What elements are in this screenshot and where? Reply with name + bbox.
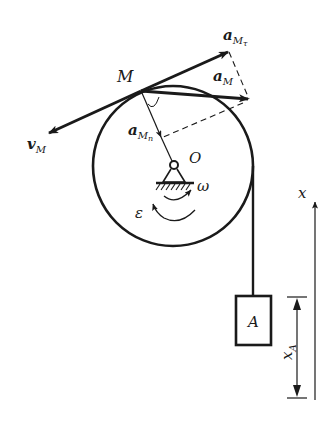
- v_M-main: v: [27, 135, 36, 153]
- angle-arc: [148, 97, 159, 107]
- dashed-a-to-an: [161, 103, 243, 138]
- v_M-sub: M: [35, 144, 47, 155]
- epsilon-label: ε: [135, 204, 143, 222]
- a_M-sub: M: [222, 76, 234, 87]
- omega-label: ω: [197, 177, 209, 195]
- x_A-arrow-bottom: [293, 385, 301, 397]
- center-O-label: O: [189, 149, 201, 167]
- epsilon-arrow: [153, 204, 195, 221]
- pulley-diagram: A O ω ε M vM aMτ: [0, 0, 336, 431]
- x-axis-label: x: [298, 184, 307, 202]
- a_Mt-subsub: τ: [243, 39, 248, 48]
- a_Mn-subsub: n: [148, 134, 153, 143]
- a_Mt-label: aMτ: [223, 26, 248, 48]
- a_Mn-label: aMn: [128, 121, 153, 143]
- a_M-label: aM: [213, 67, 234, 87]
- x_A-sub: A: [287, 344, 298, 352]
- a_M-main: a: [213, 67, 223, 85]
- x_A-label: xA: [278, 344, 298, 360]
- a_Mn-main: a: [128, 121, 138, 139]
- a_M-vector[interactable]: [141, 91, 248, 99]
- x_A-arrow-top: [293, 298, 301, 310]
- block-A-label: A: [246, 313, 259, 331]
- radius-line: [161, 137, 172, 161]
- pivot-triangle: [163, 169, 185, 182]
- omega-arrow: [164, 190, 191, 200]
- a_Mt-sub: M: [232, 35, 244, 46]
- a_Mn-sub: M: [137, 130, 149, 141]
- ground-hatch: [156, 184, 190, 190]
- v_M-label: vM: [27, 135, 47, 155]
- a_Mt-main: a: [223, 26, 233, 44]
- point-M-label: M: [116, 67, 134, 86]
- pivot-pin: [170, 161, 178, 169]
